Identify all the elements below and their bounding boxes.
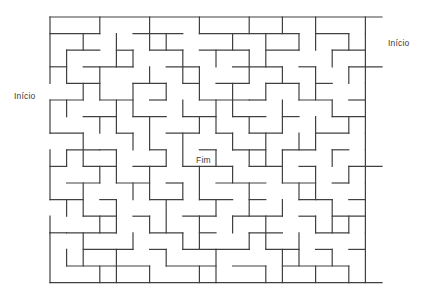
start-label-left: Início [14, 91, 36, 101]
goal-label: Fim [196, 155, 211, 165]
maze-wall-group [50, 17, 382, 283]
start-label-right: Início [388, 38, 410, 48]
maze-canvas [0, 0, 434, 306]
maze-figure: Início Início Fim [0, 0, 434, 306]
